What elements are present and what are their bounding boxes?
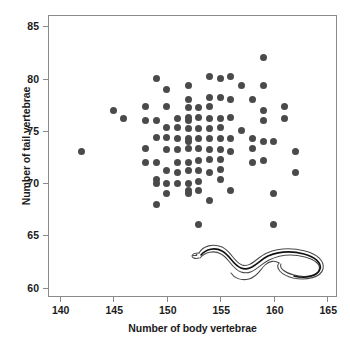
x-tick-label: 150: [159, 304, 177, 316]
data-point: [142, 145, 149, 152]
data-point: [195, 145, 202, 152]
data-point: [260, 54, 267, 61]
data-point: [174, 146, 181, 153]
data-point: [281, 115, 288, 122]
data-point: [195, 114, 202, 121]
data-point: [185, 125, 192, 132]
x-tick-label: 160: [266, 304, 284, 316]
data-point: [227, 114, 234, 121]
data-point: [249, 135, 256, 142]
data-point: [142, 159, 149, 166]
data-point: [260, 107, 267, 114]
x-tick-label: 165: [320, 304, 338, 316]
x-axis-title: Number of body vertebrae: [48, 322, 337, 334]
data-point: [249, 145, 256, 152]
data-point: [260, 82, 267, 89]
data-point: [163, 190, 170, 197]
data-point: [238, 82, 245, 89]
data-point: [249, 96, 256, 103]
data-point: [163, 180, 170, 187]
data-point: [120, 115, 127, 122]
data-point: [227, 73, 234, 80]
data-point: [195, 125, 202, 132]
data-point: [270, 190, 277, 197]
data-point: [270, 138, 277, 145]
y-tick-label: 60: [27, 282, 39, 294]
y-tick: 75: [43, 131, 49, 132]
data-point: [153, 75, 160, 82]
data-point: [195, 187, 202, 194]
x-tick: 145: [113, 296, 114, 302]
y-tick-label: 80: [27, 73, 39, 85]
data-point: [185, 159, 192, 166]
data-point: [163, 167, 170, 174]
data-point: [292, 169, 299, 176]
data-point: [206, 103, 213, 110]
data-point: [217, 135, 224, 142]
y-tick: 70: [43, 183, 49, 184]
data-point: [195, 104, 202, 111]
data-point: [174, 124, 181, 131]
data-point: [206, 115, 213, 122]
data-point: [206, 73, 213, 80]
data-point: [217, 75, 224, 82]
x-tick-label: 140: [52, 304, 70, 316]
data-point: [195, 135, 202, 142]
data-point: [206, 169, 213, 176]
data-point: [163, 86, 170, 93]
y-tick-label: 75: [27, 125, 39, 137]
data-point: [163, 134, 170, 141]
data-point: [238, 127, 245, 134]
data-point: [217, 166, 224, 173]
data-point: [217, 124, 224, 131]
data-point: [185, 180, 192, 187]
plot-area: [49, 16, 336, 296]
y-tick: 65: [43, 235, 49, 236]
data-point: [185, 190, 192, 197]
data-point: [227, 187, 234, 194]
data-point: [174, 159, 181, 166]
data-point: [217, 156, 224, 163]
data-point: [185, 145, 192, 152]
data-point: [185, 167, 192, 174]
data-point: [163, 103, 170, 110]
data-point: [227, 96, 234, 103]
data-point: [174, 169, 181, 176]
data-point: [206, 197, 213, 204]
data-point: [185, 82, 192, 89]
data-point: [206, 135, 213, 142]
data-point: [163, 146, 170, 153]
data-point: [185, 96, 192, 103]
data-point: [206, 146, 213, 153]
data-point: [227, 148, 234, 155]
y-tick-label: 85: [27, 20, 39, 32]
data-point: [260, 117, 267, 124]
data-point: [174, 135, 181, 142]
data-point: [78, 148, 85, 155]
plot-frame: 606570758085 140145150155160165: [48, 15, 337, 297]
data-point: [153, 117, 160, 124]
data-point: [260, 157, 267, 164]
x-tick: 150: [167, 296, 168, 302]
data-point: [142, 103, 149, 110]
x-tick: 140: [60, 296, 61, 302]
data-point: [249, 159, 256, 166]
y-tick-label: 65: [27, 229, 39, 241]
data-point: [153, 159, 160, 166]
data-point: [206, 94, 213, 101]
x-tick: 165: [327, 296, 328, 302]
data-point: [153, 134, 160, 141]
y-tick: 85: [43, 26, 49, 27]
data-point: [195, 157, 202, 164]
data-point: [217, 176, 224, 183]
data-point: [163, 124, 170, 131]
data-point: [281, 103, 288, 110]
y-tick: 80: [43, 79, 49, 80]
data-point: [110, 107, 117, 114]
x-tick-label: 145: [105, 304, 123, 316]
data-point: [206, 156, 213, 163]
data-point: [153, 201, 160, 208]
y-tick: 60: [43, 288, 49, 289]
data-point: [217, 94, 224, 101]
data-point: [185, 138, 192, 145]
